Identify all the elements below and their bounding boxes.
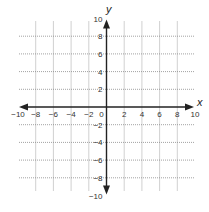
x-tick-label: −10: [11, 110, 25, 119]
y-tick-label: 10: [94, 15, 103, 24]
x-tick-labels: −10−8−6−4−20246810: [11, 110, 200, 119]
x-tick-label: 10: [191, 110, 200, 119]
x-tick-label: 6: [157, 110, 162, 119]
x-axis-label: x: [196, 96, 203, 108]
y-axis-down-arrow-icon: [103, 186, 110, 195]
y-tick-label: −10: [89, 192, 103, 201]
y-tick-label: 6: [98, 50, 103, 59]
y-tick-label: −8: [93, 174, 103, 183]
y-tick-label: 8: [98, 32, 103, 41]
y-axis-label: y: [105, 3, 113, 15]
y-tick-label: −2: [93, 121, 103, 130]
axes: [19, 20, 194, 195]
x-tick-label: −2: [84, 110, 94, 119]
y-tick-label: −6: [93, 156, 103, 165]
x-tick-label: −8: [31, 110, 41, 119]
x-tick-label: 8: [175, 110, 180, 119]
y-tick-label: 4: [98, 68, 103, 77]
x-tick-label: 0: [99, 110, 104, 119]
x-tick-label: −6: [49, 110, 59, 119]
y-axis-up-arrow-icon: [103, 20, 110, 29]
coordinate-plane: −10−8−6−4−20246810 −10−8−6−4−2246810 x y: [0, 0, 209, 212]
x-tick-label: 4: [140, 110, 145, 119]
y-tick-label: −4: [93, 138, 103, 147]
x-tick-label: 2: [122, 110, 127, 119]
y-tick-label: 2: [98, 85, 103, 94]
x-tick-label: −4: [67, 110, 77, 119]
